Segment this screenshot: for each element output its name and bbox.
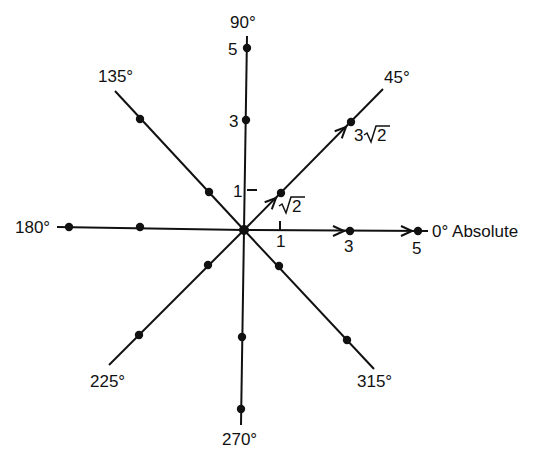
magnitude-label: 1: [233, 182, 242, 201]
point-on-a90: [242, 116, 250, 124]
phasor-diagram: 0° Absolute45°90°135°180°225°270°315° 53…: [0, 0, 547, 465]
axis-45-deg: [244, 89, 383, 230]
magnitude-label: 5: [228, 40, 237, 59]
angle-label-225: 225°: [90, 372, 125, 391]
axis-180-deg: [57, 227, 244, 230]
magnitude-label: 3: [344, 237, 353, 256]
axis-0-deg: [244, 230, 428, 231]
magnitude-label: 5: [412, 239, 421, 258]
axis-270-deg: [241, 230, 244, 425]
axis-90-deg: [244, 36, 247, 230]
point-on-a180: [65, 223, 73, 231]
point-on-a45: [277, 189, 285, 197]
axis-315-deg: [244, 230, 374, 369]
axis-225-deg: [109, 230, 244, 365]
point-on-a270: [238, 333, 246, 341]
angle-label-270: 270°: [222, 430, 257, 449]
radicand: 2: [377, 126, 386, 145]
root-label-3sqrt2: 32: [354, 126, 390, 145]
point-on-a315: [343, 336, 351, 344]
angle-label-90: 90°: [230, 13, 256, 32]
point-on-a0: [414, 227, 422, 235]
magnitude-label: 3: [229, 112, 238, 131]
point-on-a0: [346, 227, 354, 235]
point-on-a270: [237, 405, 245, 413]
point-on-a135: [136, 115, 144, 123]
angle-label-180: 180°: [15, 218, 50, 237]
angle-label-45: 45°: [384, 68, 410, 87]
point-on-a225: [135, 331, 143, 339]
magnitude-label: 1: [276, 232, 285, 251]
direction-arrows: [265, 127, 412, 236]
point-on-a45: [347, 118, 355, 126]
angle-label-135: 135°: [98, 67, 133, 86]
root-label-sqrt2: 2: [279, 197, 305, 216]
radicand: 2: [292, 197, 301, 216]
point-on-a90: [243, 44, 251, 52]
diagram-canvas: 0° Absolute45°90°135°180°225°270°315° 53…: [0, 0, 547, 465]
axis-135-deg: [115, 91, 244, 230]
angle-label-0: 0° Absolute: [432, 222, 518, 241]
angle-label-315: 315°: [357, 372, 392, 391]
point-on-a225: [204, 261, 212, 269]
point-on-a180: [136, 223, 144, 231]
point-on-a315: [275, 262, 283, 270]
root-coefficient: 3: [354, 126, 363, 145]
point-on-a135: [205, 188, 213, 196]
origin-point: [239, 225, 249, 235]
